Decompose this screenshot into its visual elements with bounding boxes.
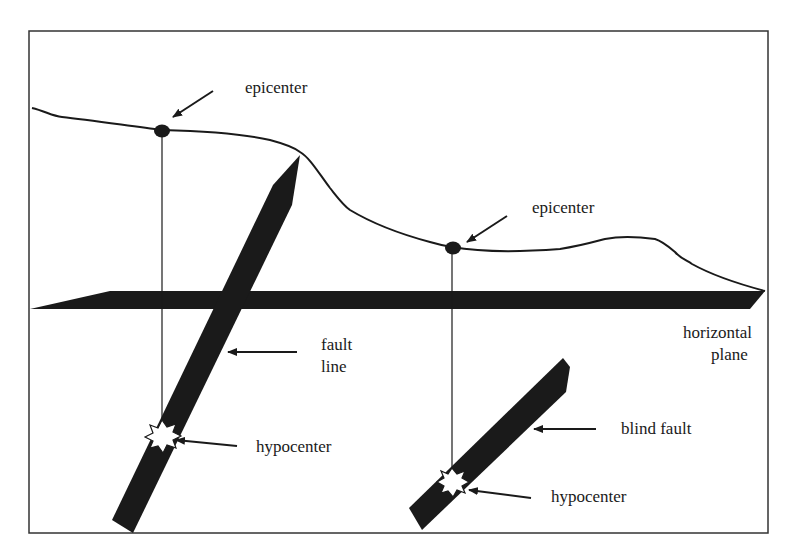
epicenter-1-label: epicenter [245, 77, 307, 99]
blind-fault-slab [409, 358, 570, 530]
earthquake-diagram [0, 0, 798, 557]
horizontal-plane-label-2: plane [711, 344, 748, 366]
hypocenter-2-arrow [469, 490, 531, 498]
hypocenter-1-label: hypocenter [256, 436, 332, 458]
horizontal-plane-label-1: horizontal [683, 322, 752, 344]
epicenter-2-label: epicenter [532, 197, 594, 219]
epicenter-1-dot [154, 125, 170, 138]
hypocenter-2-burst [437, 468, 469, 497]
horizontal-plane [30, 291, 765, 309]
blind-fault-label: blind fault [621, 418, 691, 440]
fault-line-label-2: line [321, 356, 347, 378]
epicenter-1-arrow [173, 91, 213, 117]
hypocenter-2-label: hypocenter [551, 486, 627, 508]
hypocenter-1-burst [145, 420, 181, 453]
epicenter-2-arrow [467, 216, 507, 242]
epicenter-2-dot [445, 242, 461, 255]
hypocenter-1-arrow [176, 440, 237, 446]
fault-line-slab [112, 155, 300, 533]
diagram-frame [29, 31, 768, 533]
fault-line-label-1: fault [321, 334, 352, 356]
ground-surface-curve [32, 108, 765, 291]
